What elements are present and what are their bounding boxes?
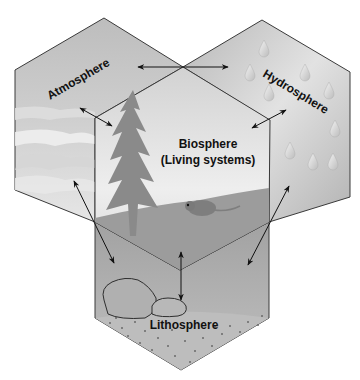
biosphere-sublabel: (Living systems) [161, 153, 256, 167]
biosphere-label: Biosphere [179, 137, 238, 151]
lithosphere-label: Lithosphere [150, 318, 219, 332]
earth-spheres-diagram: Atmosphere Hydrosphere Biosphere (Living… [0, 0, 360, 380]
small-rock [152, 298, 186, 317]
